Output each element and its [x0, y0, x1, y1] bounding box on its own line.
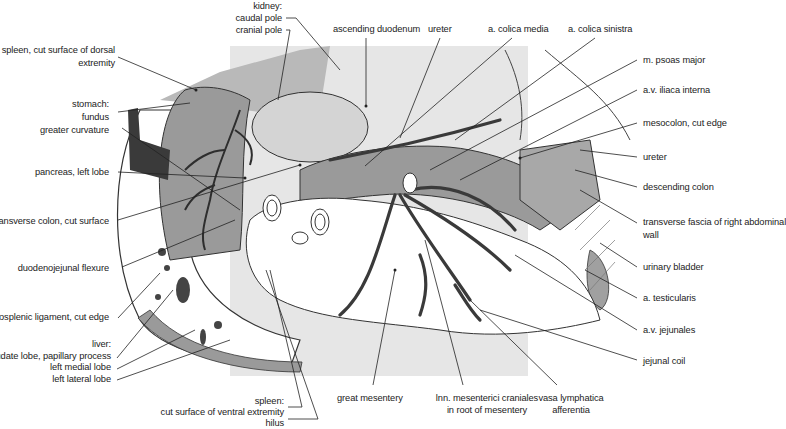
label-stomach: stomach: fundus greater curvature	[40, 98, 109, 137]
label-a-testicularis: a. testicularis	[643, 292, 696, 305]
label-line: stomach:	[40, 98, 109, 111]
label-line: cranial pole	[236, 24, 282, 36]
label-line: caudate lobe, papillary process	[0, 351, 111, 363]
label-a-colica-sinistra: a. colica sinistra	[568, 23, 632, 36]
label-ascending-duodenum: ascending duodenum	[333, 23, 420, 36]
label-a-colica-media: a. colica media	[488, 23, 549, 36]
label-line: cut surface of ventral extremity	[161, 407, 284, 418]
label-av-iliaca-interna: a.v. iliaca interna	[643, 84, 710, 97]
label-transverse-colon: transverse colon, cut surface	[0, 215, 109, 228]
label-gastrosplenic-ligament: gastrosplenic ligament, cut edge	[0, 311, 109, 324]
label-duodenojejunal-flexure: duodenojejunal flexure	[18, 262, 109, 275]
label-liver: liver: caudate lobe, papillary process l…	[0, 339, 111, 385]
label-line: spleen:	[161, 396, 284, 407]
label-line: liver:	[0, 339, 111, 351]
label-line: left medial lobe	[0, 362, 111, 374]
label-vasa-lymphatica: vasa lymphatica afferentia	[530, 392, 612, 416]
pelvic-outline-2	[545, 50, 630, 140]
label-line: in root of mesentery	[428, 404, 546, 416]
label-pancreas: pancreas, left lobe	[35, 166, 109, 179]
label-transverse-fascia: transverse fascia of right abdominal wal…	[643, 216, 786, 242]
label-lnn-mesenterici: lnn. mesenterici craniales in root of me…	[428, 392, 546, 416]
label-great-mesentery: great mesentery	[337, 392, 403, 405]
label-line: lnn. mesenterici craniales	[428, 392, 546, 404]
label-descending-colon: descending colon	[643, 181, 714, 194]
label-line: extremity	[2, 57, 115, 70]
label-spleen-ventral: spleen: cut surface of ventral extremity…	[161, 396, 284, 429]
label-line: transverse fascia of right abdominal	[643, 216, 786, 229]
stomach-fundus	[159, 87, 250, 260]
label-line: left lateral lobe	[0, 374, 111, 386]
label-line: wall	[643, 229, 786, 242]
label-ureter-right: ureter	[643, 151, 667, 164]
label-jejunal-coil: jejunal coil	[643, 355, 685, 368]
label-kidney: kidney: caudal pole cranial pole	[236, 0, 282, 36]
label-mesocolon: mesocolon, cut edge	[643, 117, 727, 130]
label-line: greater curvature	[40, 124, 109, 137]
label-spleen-dorsal: spleen, cut surface of dorsal extremity	[2, 44, 115, 70]
label-line: fundus	[40, 111, 109, 124]
label-m-psoas-major: m. psoas major	[643, 54, 705, 67]
kidney	[252, 92, 368, 162]
label-line: vasa lymphatica	[530, 392, 612, 404]
label-urinary-bladder: urinary bladder	[643, 261, 704, 274]
label-av-jejunales: a.v. jejunales	[643, 324, 695, 337]
label-line: kidney:	[236, 0, 282, 12]
label-line: caudal pole	[236, 12, 282, 24]
label-line: afferentia	[530, 404, 612, 416]
label-line: hilus	[161, 418, 284, 429]
label-ureter-top: ureter	[428, 23, 452, 36]
label-line: spleen, cut surface of dorsal	[2, 44, 115, 57]
